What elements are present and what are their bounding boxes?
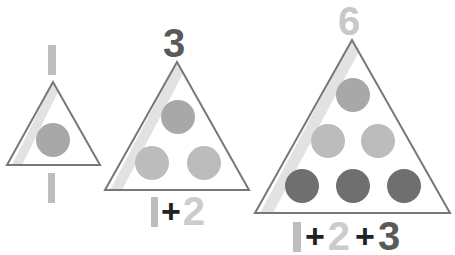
medium-total-label: 3 <box>163 23 185 63</box>
medium-sum-label: +2 <box>151 196 205 234</box>
dot-mid <box>336 78 370 112</box>
large-total-label: 6 <box>338 1 360 41</box>
dot-dark <box>387 169 421 203</box>
digit-one <box>48 173 55 203</box>
triangular-numbers-diagram: 3 +2 6 +2+3 <box>0 0 455 255</box>
dot-dark <box>336 169 370 203</box>
dot-light <box>187 146 221 180</box>
dot-dark <box>285 169 319 203</box>
digit-one <box>48 45 56 75</box>
large-sum-label: +2+3 <box>293 220 400 255</box>
small-sum-label <box>48 173 55 206</box>
dot-light <box>361 124 395 158</box>
dot-light <box>135 146 169 180</box>
triangle-large <box>255 40 450 213</box>
digit-one <box>151 197 158 227</box>
digit-two: 2 <box>183 189 205 233</box>
dot-light <box>311 124 345 158</box>
dot-mid <box>161 100 195 134</box>
small-total-label <box>48 45 56 78</box>
triangle-small <box>7 82 100 165</box>
plus-sign: + <box>355 217 375 255</box>
dot-mid <box>36 123 70 157</box>
plus-sign: + <box>305 217 325 255</box>
digit-one <box>293 222 301 252</box>
digit-two: 2 <box>328 214 350 255</box>
plus-sign: + <box>161 192 181 230</box>
triangle-medium <box>105 62 249 190</box>
digit-three: 3 <box>378 214 400 255</box>
